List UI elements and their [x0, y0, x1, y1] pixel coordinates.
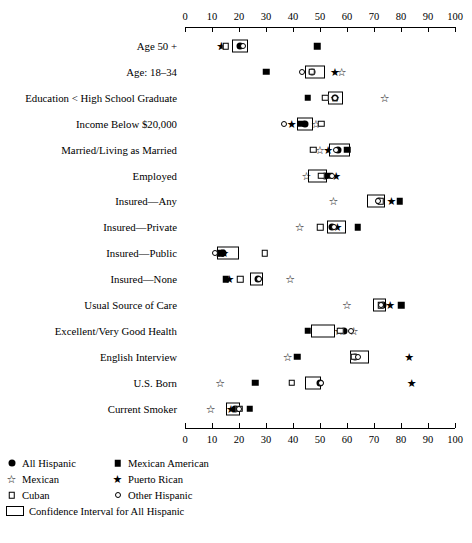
row-label-9: Insured—None [110, 273, 177, 285]
axis-tick-bottom-20 [239, 423, 240, 428]
legend-label: Mexican American [128, 458, 209, 469]
marker-filled-star-icon: ★ [323, 146, 333, 153]
marker-open-circle-icon [333, 147, 339, 153]
axis-tick-label-top-90: 90 [413, 11, 443, 22]
row-label-8: Insured—Public [106, 247, 177, 259]
axis-tick-top-50 [320, 27, 321, 32]
axis-tick-label-top-0: 0 [170, 11, 200, 22]
axis-tick-top-40 [293, 27, 294, 32]
row-label-5: Employed [133, 170, 177, 182]
marker-open-circle-icon [299, 69, 305, 75]
axis-tick-label-bottom-60: 60 [332, 434, 362, 445]
axis-tick-top-30 [266, 27, 267, 32]
row-label-6: Insured—Any [115, 195, 177, 207]
axis-tick-top-70 [374, 27, 375, 32]
marker-open-square-icon [288, 379, 295, 386]
axis-tick-bottom-60 [347, 423, 348, 428]
axis-tick-label-bottom-90: 90 [413, 434, 443, 445]
legend-label: Other Hispanic [128, 490, 192, 501]
marker-filled-square-icon [298, 120, 305, 127]
axis-tick-label-top-100: 100 [440, 11, 470, 22]
row-label-0: Age 50 + [137, 40, 177, 52]
marker-open-star-icon: ☆ [206, 405, 216, 412]
legend-symbol-filled-circle-icon [6, 458, 17, 469]
row-label-3: Income Below $20,000 [76, 118, 177, 130]
chart-container: 0102030405060708090100 Age 50 +☆★Age: 18… [0, 0, 472, 543]
marker-filled-star-icon: ★ [407, 379, 417, 386]
marker-open-square-icon [318, 120, 325, 127]
axis-tick-label-bottom-10: 10 [197, 434, 227, 445]
marker-filled-square-icon [252, 379, 259, 386]
marker-open-star-icon: ☆ [215, 379, 225, 386]
axis-tick-top-60 [347, 27, 348, 32]
legend-symbol-confidence-interval-icon [6, 506, 24, 516]
marker-open-square-icon [309, 69, 316, 76]
marker-open-circle-icon [375, 198, 381, 204]
axis-tick-bottom-50 [320, 423, 321, 428]
legend-entry-confidence-interval: Confidence Interval for All Hispanic [6, 503, 184, 519]
marker-filled-star-icon: ★ [113, 476, 123, 483]
axis-tick-label-top-80: 80 [386, 11, 416, 22]
axis-tick-label-top-70: 70 [359, 11, 389, 22]
legend-entry-filled-square: Mexican American [112, 455, 209, 471]
row-label-11: Excellent/Very Good Health [55, 325, 177, 337]
row-label-13: U.S. Born [134, 377, 178, 389]
axis-tick-label-top-50: 50 [305, 11, 335, 22]
marker-open-circle-icon [115, 492, 121, 498]
marker-open-circle-icon [256, 276, 262, 282]
marker-open-circle-icon [348, 328, 354, 334]
marker-filled-square-icon [305, 328, 312, 335]
marker-filled-square-icon [114, 460, 121, 467]
legend-entry-open-star: ☆Mexican [6, 471, 59, 487]
marker-open-square-icon [318, 172, 325, 179]
legend-symbol-open-star-icon: ☆ [6, 474, 17, 485]
legend-entry-filled-circle: All Hispanic [6, 455, 76, 471]
row-label-10: Usual Source of Care [84, 299, 177, 311]
row-label-14: Current Smoker [108, 403, 177, 415]
marker-open-circle-icon [281, 121, 287, 127]
marker-open-circle-icon [329, 173, 335, 179]
legend-label: Puerto Rican [128, 474, 183, 485]
axis-tick-bottom-80 [401, 423, 402, 428]
axis-tick-top-10 [212, 27, 213, 32]
marker-open-star-icon: ☆ [342, 302, 352, 309]
axis-tick-bottom-0 [185, 423, 186, 428]
marker-open-circle-icon [240, 43, 246, 49]
marker-filled-square-icon [398, 302, 405, 309]
marker-open-circle-icon [378, 302, 384, 308]
axis-tick-bottom-100 [455, 423, 456, 428]
marker-open-square-icon [322, 95, 329, 102]
row-label-7: Insured—Private [103, 221, 177, 233]
axis-tick-bottom-30 [266, 423, 267, 428]
marker-open-star-icon: ☆ [295, 224, 305, 231]
axis-tick-label-top-60: 60 [332, 11, 362, 22]
axis-tick-label-bottom-100: 100 [440, 434, 470, 445]
marker-open-square-icon [222, 43, 229, 50]
legend-label-confidence-interval: Confidence Interval for All Hispanic [29, 506, 184, 517]
axis-tick-label-top-20: 20 [224, 11, 254, 22]
marker-filled-star-icon: ★ [387, 198, 397, 205]
axis-tick-label-bottom-20: 20 [224, 434, 254, 445]
axis-tick-top-90 [428, 27, 429, 32]
marker-filled-square-icon [396, 198, 403, 205]
row-label-12: English Interview [100, 351, 177, 363]
marker-open-circle-icon [355, 354, 361, 360]
marker-open-square-icon [337, 328, 344, 335]
marker-open-square-icon [317, 224, 324, 231]
marker-open-star-icon: ☆ [380, 94, 390, 101]
marker-filled-square-icon [344, 146, 351, 153]
legend-symbol-open-circle-icon [112, 490, 123, 501]
axis-tick-top-80 [401, 27, 402, 32]
marker-filled-square-icon [305, 95, 312, 102]
axis-tick-bottom-40 [293, 423, 294, 428]
marker-filled-square-icon [314, 43, 321, 50]
legend-entry-open-square: Cuban [6, 487, 50, 503]
legend-label: Cuban [22, 490, 50, 501]
marker-open-star-icon: ☆ [285, 276, 295, 283]
row-label-2: Education < High School Graduate [25, 92, 177, 104]
axis-tick-label-bottom-80: 80 [386, 434, 416, 445]
axis-tick-bottom-90 [428, 423, 429, 428]
axis-tick-bottom-10 [212, 423, 213, 428]
legend-symbol-filled-star-icon: ★ [112, 474, 123, 485]
axis-tick-label-top-10: 10 [197, 11, 227, 22]
